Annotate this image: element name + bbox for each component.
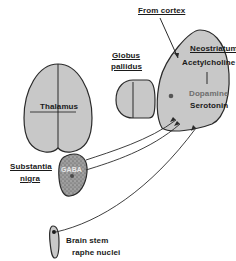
nigro-striatal-path-2 [86,124,180,170]
raphe-label-line2: raphe nuclei [72,248,120,258]
acetylcholine-label: Acetylcholine [182,58,235,68]
substantia-nigra-shape [59,154,87,196]
thalamus-label: Thalamus [40,102,78,112]
globus-pallidus-label-line1: Globus [112,51,140,61]
serotonin-label: Serotonin [190,101,228,111]
raphe-label-line1: Brain stem [66,236,108,246]
dopamine-terminal-dot [169,94,174,99]
substantia-nigra-label-line2: nigra [20,174,40,184]
globus-pallidus-label-line2: pallidus [111,62,142,72]
raphe-nuclei-shape [50,226,59,258]
dopamine-label: Dopamine [189,89,228,99]
globus-pallidus-shape [116,80,155,118]
neostriatum-label: Neostriatum [190,44,236,54]
gaba-label: GABA [61,165,82,175]
diagram-canvas [0,0,236,261]
substantia-nigra-label-line1: Substantia [10,162,52,172]
from-cortex-label: From cortex [138,6,185,16]
